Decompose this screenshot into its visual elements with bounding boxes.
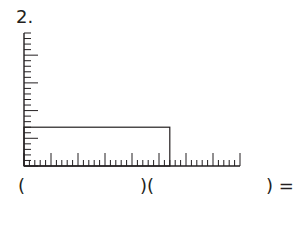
open-paren-1: ( bbox=[18, 175, 25, 197]
vertical-ruler bbox=[24, 33, 38, 166]
close-paren-equals: ) = bbox=[266, 175, 294, 197]
middle-parens: )( bbox=[140, 175, 154, 197]
horizontal-ruler bbox=[24, 153, 240, 166]
